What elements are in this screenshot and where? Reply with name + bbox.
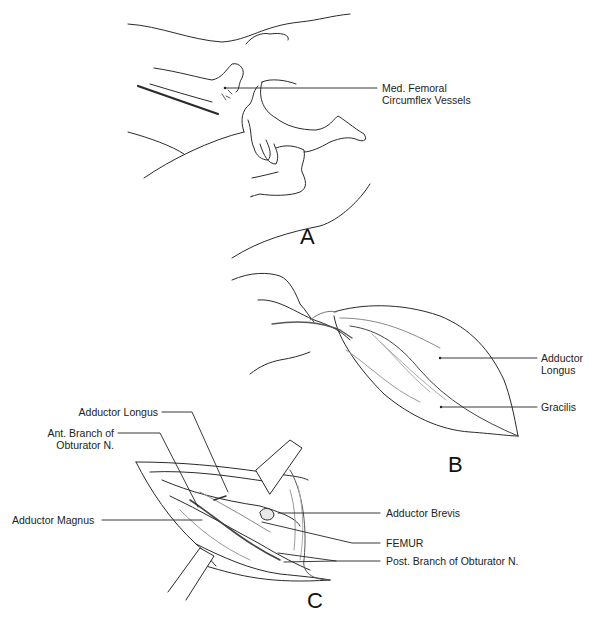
label-line-1: Post. Branch of Obturator N.	[386, 555, 518, 567]
label-line-1: Adductor Longus	[60, 406, 158, 418]
label-line-1: Ant. Branch of	[20, 427, 114, 439]
label-line-2: Obturator N.	[20, 439, 114, 451]
panel-letter-b: B	[448, 454, 463, 476]
label-adductor-magnus: Adductor Magnus	[12, 514, 94, 526]
label-post-branch-obturator-n: Post. Branch of Obturator N.	[386, 555, 518, 567]
label-line-1: Adductor Magnus	[12, 514, 94, 526]
label-line-1: Adductor Brevis	[386, 507, 460, 519]
panel-a-drawing	[128, 14, 370, 258]
label-line-2: Circumflex Vessels	[382, 94, 471, 106]
label-line-2: Longus	[541, 364, 583, 376]
label-line-1: FEMUR	[386, 537, 423, 549]
label-gracilis: Gracilis	[541, 401, 576, 413]
label-femur: FEMUR	[386, 537, 423, 549]
label-adductor-brevis: Adductor Brevis	[386, 507, 460, 519]
panel-b-drawing	[232, 273, 518, 436]
label-adductor-longus-c: Adductor Longus	[60, 406, 158, 418]
label-med-femoral-circumflex-vessels: Med. Femoral Circumflex Vessels	[382, 82, 471, 106]
label-line-1: Gracilis	[541, 401, 576, 413]
label-adductor-longus-b: Adductor Longus	[541, 352, 583, 376]
panel-letter-c: C	[307, 590, 323, 612]
label-ant-branch-obturator-n: Ant. Branch of Obturator N.	[20, 427, 114, 451]
panel-letter-a: A	[300, 226, 315, 248]
label-line-1: Med. Femoral	[382, 82, 471, 94]
anatomical-illustration	[0, 0, 596, 622]
label-line-1: Adductor	[541, 352, 583, 364]
